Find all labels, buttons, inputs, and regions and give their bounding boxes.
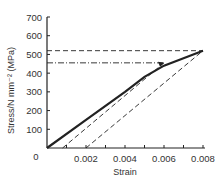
x-tick-label: 0.008 (191, 153, 215, 164)
series-unloading-line-1 (63, 63, 164, 148)
y-tick-label: 700 (26, 12, 42, 23)
y-tick-label: 600 (26, 30, 42, 41)
x-tick-label: 0.004 (113, 153, 137, 164)
y-tick-label: 400 (26, 68, 42, 79)
y-tick-label: 200 (26, 105, 42, 116)
y-tick-label: 500 (26, 49, 42, 60)
series-stress-strain-curve (47, 51, 203, 148)
y-axis-label: Stress/N mm⁻² (MPa) (6, 47, 16, 134)
y-tick-label: 100 (26, 124, 42, 135)
x-tick-label: 0.006 (152, 153, 176, 164)
origin-label: 0 (33, 151, 38, 162)
y-tick-label: 300 (26, 86, 42, 97)
stress-strain-chart: 10020030040050060070000.0020.0040.0060.0… (0, 0, 223, 183)
x-axis-label: Strain (113, 167, 137, 177)
series-unloading-line-2 (86, 51, 203, 148)
x-tick-label: 0.002 (74, 153, 98, 164)
